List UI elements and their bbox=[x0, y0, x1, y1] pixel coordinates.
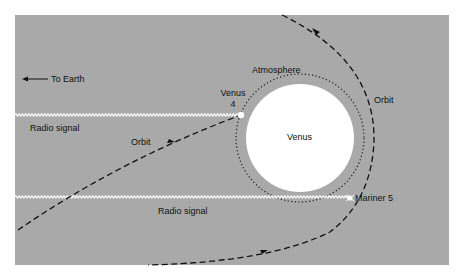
venus4-label-line1: Venus bbox=[220, 88, 245, 99]
to-earth-label: To Earth bbox=[51, 75, 85, 84]
orbit-venus4-label: Orbit bbox=[131, 138, 151, 147]
atmosphere-label: Atmosphere bbox=[252, 66, 301, 75]
venus4-label: Venus 4 bbox=[220, 88, 245, 110]
radio-signal-upper-label: Radio signal bbox=[30, 124, 80, 133]
panel-background bbox=[15, 15, 449, 265]
venus4-label-line2: 4 bbox=[220, 99, 245, 110]
venus-encounter-diagram: To Earth Radio signal Radio signal Orbit… bbox=[0, 0, 461, 280]
orbit-mariner5-label: Orbit bbox=[374, 96, 394, 105]
venus4-spacecraft-icon bbox=[238, 112, 244, 118]
mariner5-label: Mariner 5 bbox=[355, 194, 393, 203]
diagram-canvas bbox=[0, 0, 461, 280]
venus-planet-label: Venus bbox=[287, 133, 312, 142]
radio-signal-lower-label: Radio signal bbox=[158, 207, 208, 216]
